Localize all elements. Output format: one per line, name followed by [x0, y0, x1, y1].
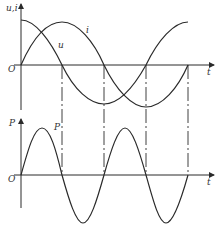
i-curve-label: i [86, 25, 89, 35]
bottom-y-axis-label: P [8, 118, 16, 128]
u-curve [21, 20, 188, 104]
u-curve-label: u [58, 40, 64, 50]
p-curve-label: P [53, 122, 61, 132]
top-y-axis-label: u,i [6, 3, 18, 13]
bottom-t-axis-label: t [207, 177, 211, 187]
power-waveform-diagram: u,i O t u i P O t P [0, 0, 220, 231]
bottom-origin-label: O [8, 174, 16, 184]
top-origin-label: O [8, 64, 16, 74]
top-t-axis-label: t [207, 67, 211, 77]
phase-guide-lines [62, 65, 188, 175]
